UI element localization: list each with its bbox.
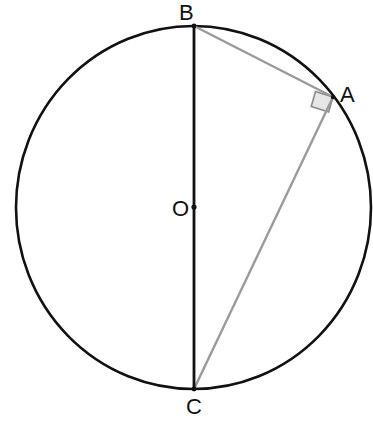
segment-AC <box>194 97 333 389</box>
label-B: B <box>179 0 194 25</box>
point-C <box>192 387 197 392</box>
segment-BA <box>194 26 333 97</box>
point-A <box>331 95 335 99</box>
label-O: O <box>172 196 189 221</box>
diagram-canvas: B A O C <box>0 0 373 422</box>
geometry-diagram: B A O C <box>0 0 373 422</box>
point-O <box>191 204 196 209</box>
label-C: C <box>186 394 202 419</box>
label-A: A <box>340 82 355 107</box>
